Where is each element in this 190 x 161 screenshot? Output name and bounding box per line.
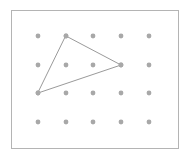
geoboard-figure	[0, 0, 190, 161]
grid-dot-r2c1	[64, 91, 69, 96]
grid-dot-r0c0	[36, 34, 41, 39]
triangle-right-vertex	[119, 63, 124, 68]
grid-dot-r0c4	[147, 34, 152, 39]
triangle-left-vertex	[36, 91, 41, 96]
figure-canvas	[0, 0, 190, 161]
grid-dot-r2c3	[119, 91, 124, 96]
figure-border	[12, 11, 179, 149]
grid-dot-r1c1	[64, 63, 69, 68]
grid-dot-r1c2	[91, 63, 96, 68]
grid-dot-r0c2	[91, 34, 96, 39]
grid-dot-r1c0	[36, 63, 41, 68]
grid-dot-r0c3	[119, 34, 124, 39]
grid-dot-r1c4	[147, 63, 152, 68]
grid-dot-r3c2	[91, 120, 96, 125]
grid-dot-r3c3	[119, 120, 124, 125]
grid-dot-r3c1	[64, 120, 69, 125]
grid-dot-r2c4	[147, 91, 152, 96]
grid-dot-r2c2	[91, 91, 96, 96]
triangle-top-vertex	[64, 34, 69, 39]
grid-dot-r3c4	[147, 120, 152, 125]
grid-dot-r3c0	[36, 120, 41, 125]
